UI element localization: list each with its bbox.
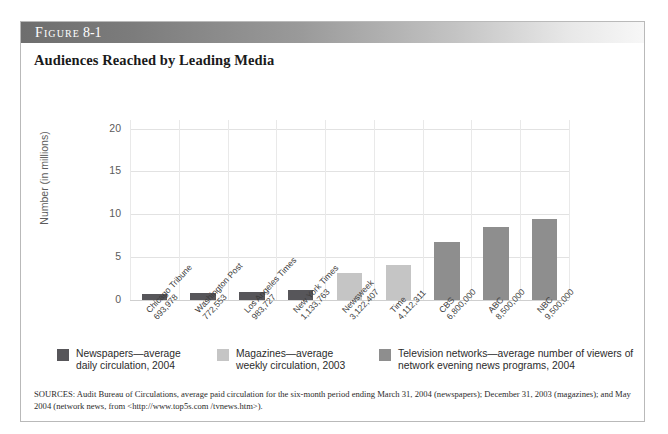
y-tick-label: 10 <box>95 207 121 219</box>
gridline-horizontal <box>130 129 569 130</box>
figure-title: Audiences Reached by Leading Media <box>34 52 274 69</box>
sources-note: SOURCES: Audit Bureau of Circulations, a… <box>34 389 634 412</box>
y-axis-title: Number (in millions) <box>38 113 50 243</box>
legend-swatch <box>57 349 69 361</box>
figure-label-number: 8-1 <box>80 25 102 40</box>
y-tick-label: 5 <box>95 250 121 262</box>
gridline-horizontal <box>130 171 569 172</box>
gridline-vertical <box>130 120 131 300</box>
chart-area: Number (in millions) 05101520 Chicago Tr… <box>21 80 644 350</box>
gridline-vertical <box>374 120 375 300</box>
figure-header-band: Figure8-1 <box>21 22 644 43</box>
legend-item: Newspapers—average daily circulation, 20… <box>57 348 181 371</box>
legend-swatch <box>379 349 391 361</box>
y-tick-label: 20 <box>95 122 121 134</box>
gridline-vertical <box>569 120 570 300</box>
figure-label-word: Figure <box>35 25 80 40</box>
legend-label: Newspapers—average daily circulation, 20… <box>76 348 181 371</box>
gridline-vertical <box>423 120 424 300</box>
legend-label: Magazines—average weekly circulation, 20… <box>236 348 345 371</box>
gridline-vertical <box>520 120 521 300</box>
legend-swatch <box>217 349 229 361</box>
figure-box: Figure8-1 Audiences Reached by Leading M… <box>20 21 645 422</box>
figure-label: Figure8-1 <box>35 25 102 41</box>
y-tick-label: 15 <box>95 164 121 176</box>
y-tick-label: 0 <box>95 293 121 305</box>
chart-legend: Newspapers—average daily circulation, 20… <box>21 348 644 380</box>
gridline-vertical <box>471 120 472 300</box>
legend-label: Television networks—average number of vi… <box>398 348 633 371</box>
legend-item: Television networks—average number of vi… <box>379 348 633 371</box>
gridline-horizontal <box>130 214 569 215</box>
legend-item: Magazines—average weekly circulation, 20… <box>217 348 345 371</box>
